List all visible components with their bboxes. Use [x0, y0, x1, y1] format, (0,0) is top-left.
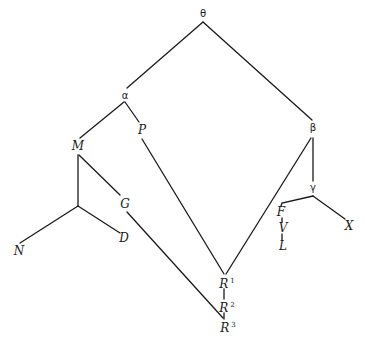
edge-G-R3 — [127, 212, 223, 318]
edge-theta-beta — [203, 22, 312, 120]
node-R3-letter: R — [220, 321, 229, 335]
edge-alpha-P — [125, 102, 139, 122]
node-R1-letter: R — [219, 277, 228, 291]
node-P: P — [138, 124, 146, 136]
edge-gamma-F — [281, 196, 313, 206]
node-R3: R3 — [220, 319, 236, 334]
node-R2-sup: 2 — [230, 301, 234, 309]
node-theta: θ — [200, 8, 206, 20]
stemma-diagram — [0, 0, 365, 340]
node-V: V — [279, 222, 288, 234]
node-R1: R1 — [219, 275, 235, 290]
node-L: L — [279, 240, 287, 252]
node-X: X — [345, 220, 354, 232]
edge-junction-N — [20, 206, 78, 243]
edge-alpha-M — [80, 102, 124, 138]
node-R1-sup: 1 — [230, 277, 234, 285]
node-alpha: α — [122, 90, 129, 102]
node-D: D — [119, 232, 129, 244]
node-R2-letter: R — [219, 301, 228, 315]
node-R3-sup: 3 — [231, 321, 235, 329]
edge-M-G — [79, 155, 120, 195]
node-M: M — [72, 140, 84, 152]
edge-gamma-X — [313, 196, 345, 219]
edge-junction-D — [78, 206, 120, 233]
edge-beta-R1 — [226, 138, 311, 274]
node-R2: R2 — [219, 299, 235, 314]
edge-theta-alpha — [127, 22, 203, 88]
node-beta: β — [310, 122, 316, 134]
node-gamma: γ — [310, 182, 316, 194]
edge-P-R1 — [142, 139, 224, 274]
node-F: F — [277, 206, 285, 218]
node-G: G — [120, 198, 130, 210]
node-N: N — [14, 245, 25, 257]
